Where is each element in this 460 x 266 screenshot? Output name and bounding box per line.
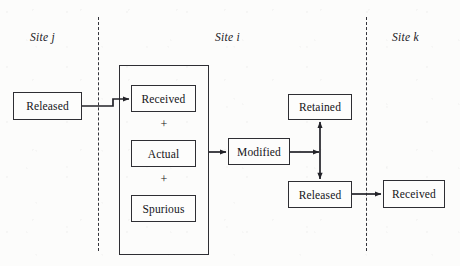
divider-site-i-site-k — [366, 17, 367, 251]
node-released-site-j[interactable]: Released — [13, 92, 82, 120]
site-label-j: Site j — [30, 31, 55, 43]
node-received-site-i[interactable]: Received — [131, 85, 196, 112]
site-label-k: Site k — [392, 31, 419, 43]
operator-plus-actual-spurious: + — [154, 172, 174, 187]
node-actual-site-i[interactable]: Actual — [131, 140, 196, 167]
divider-site-j-site-i — [98, 17, 99, 251]
site-label-i: Site i — [215, 31, 240, 43]
node-modified-site-i[interactable]: Modified — [228, 138, 290, 165]
node-released-site-i[interactable]: Released — [288, 181, 352, 208]
node-spurious-site-i[interactable]: Spurious — [131, 195, 196, 222]
operator-plus-received-actual: + — [154, 117, 174, 132]
node-retained-site-i[interactable]: Retained — [288, 94, 352, 120]
node-received-site-k[interactable]: Received — [383, 180, 445, 208]
figure-canvas: Site j Site i Site k — [0, 0, 460, 266]
